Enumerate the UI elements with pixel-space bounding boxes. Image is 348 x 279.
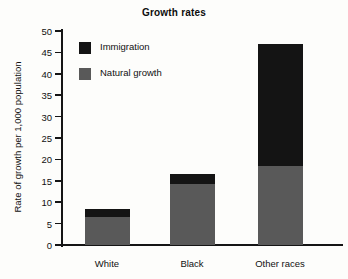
y-tick-label-holder: 50 — [0, 31, 52, 42]
y-tick-5 — [55, 223, 62, 225]
y-tick-40 — [55, 73, 62, 75]
y-tick-20 — [55, 159, 62, 161]
y-tick-label-50: 50 — [0, 26, 52, 37]
plot-area — [62, 31, 343, 245]
legend-label-immigration: Immigration — [100, 41, 150, 52]
bar-segment-natural-growth — [170, 184, 215, 245]
y-tick-50 — [55, 30, 62, 32]
y-tick-label-holder: 35 — [0, 95, 52, 106]
y-tick-0 — [55, 244, 62, 246]
y-tick-45 — [55, 52, 62, 54]
bar-black — [170, 174, 215, 245]
y-tick-30 — [55, 116, 62, 118]
y-tick-25 — [55, 137, 62, 139]
y-tick-label-holder: 45 — [0, 52, 52, 63]
y-tick-label-15: 15 — [0, 175, 52, 186]
y-tick-15 — [55, 180, 62, 182]
legend-label-natural-growth: Natural growth — [100, 67, 162, 78]
legend-swatch-immigration-icon — [79, 42, 91, 54]
x-label-other-races: Other races — [255, 258, 305, 269]
legend-swatch-natural-growth-icon — [79, 68, 91, 80]
y-tick-label-30: 30 — [0, 111, 52, 122]
y-tick-label-35: 35 — [0, 90, 52, 101]
x-label-white: White — [95, 258, 119, 269]
y-tick-label-holder: 25 — [0, 138, 52, 149]
bar-segment-immigration — [85, 209, 130, 218]
y-tick-label-holder: 5 — [0, 224, 52, 235]
y-tick-label-25: 25 — [0, 133, 52, 144]
bar-segment-natural-growth — [85, 217, 130, 245]
chart-title: Growth rates — [0, 7, 348, 18]
y-tick-10 — [55, 201, 62, 203]
y-tick-35 — [55, 94, 62, 96]
y-tick-label-45: 45 — [0, 47, 52, 58]
bar-segment-natural-growth — [258, 166, 303, 245]
y-tick-label-20: 20 — [0, 154, 52, 165]
y-tick-label-10: 10 — [0, 197, 52, 208]
bar-white — [85, 209, 130, 245]
y-tick-label-0: 0 — [0, 240, 52, 251]
y-tick-label-holder: 20 — [0, 159, 52, 170]
y-tick-label-40: 40 — [0, 68, 52, 79]
x-label-black: Black — [180, 258, 203, 269]
bar-segment-immigration — [170, 174, 215, 184]
bar-other-races — [258, 44, 303, 245]
chart-figure: Growth rates Rate of growth per 1,000 po… — [0, 0, 348, 279]
y-tick-label-holder: 0 — [0, 245, 52, 256]
y-tick-label-holder: 10 — [0, 202, 52, 213]
bar-segment-immigration — [258, 44, 303, 166]
y-tick-label-5: 5 — [0, 218, 52, 229]
y-tick-label-holder: 15 — [0, 181, 52, 192]
y-tick-label-holder: 30 — [0, 117, 52, 128]
y-tick-label-holder: 40 — [0, 74, 52, 85]
